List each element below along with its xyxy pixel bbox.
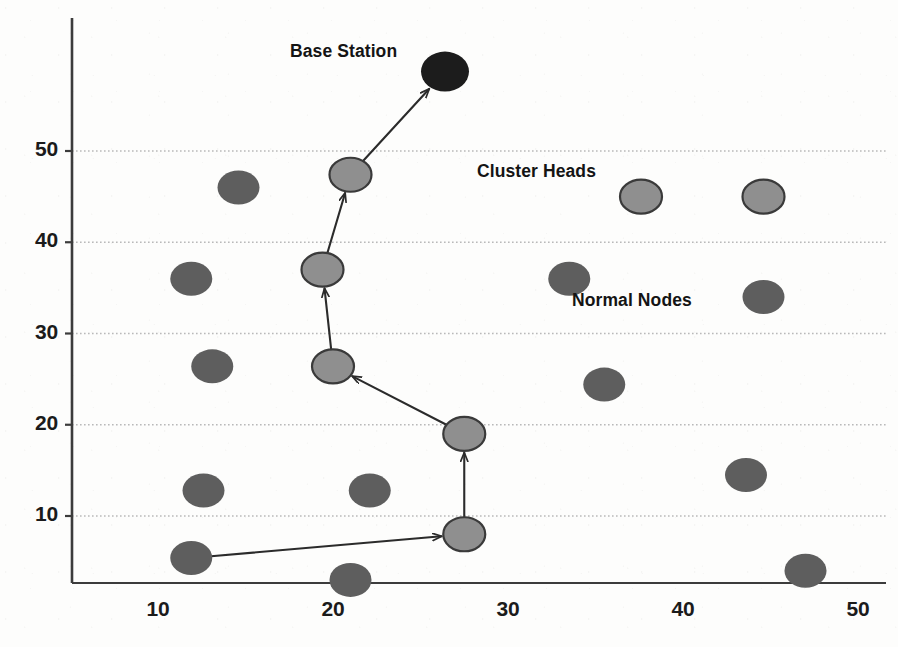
normal-node-10[interactable] [583, 368, 625, 402]
normal-node-9[interactable] [743, 280, 785, 314]
cluster-head-node-1[interactable] [330, 158, 372, 192]
y-tick-label-50: 50 [12, 137, 58, 161]
link-node-to-ch8 [211, 536, 441, 556]
link-ch26-to-ch37 [325, 289, 332, 351]
normal-node-2[interactable] [170, 262, 212, 296]
normal-node-11[interactable] [725, 458, 767, 492]
normal-node-6[interactable] [170, 541, 212, 575]
y-tick-label-20: 20 [12, 411, 58, 435]
cluster-head-node-3[interactable] [312, 349, 354, 383]
cluster-head-node-6[interactable] [620, 180, 662, 214]
x-tick-label-30: 30 [483, 597, 533, 621]
x-tick-label-10: 10 [133, 597, 183, 621]
normal-node-7[interactable] [330, 563, 372, 597]
figure-canvas: 1020304050 1020304050 Base StationCluste… [0, 0, 898, 647]
link-ch37-to-ch47 [327, 193, 345, 254]
link-ch-to-base-station [362, 89, 429, 162]
node-links [211, 89, 464, 556]
scatter-plot [0, 0, 898, 647]
link-ch19-to-ch26 [353, 376, 448, 425]
normal-node-1[interactable] [218, 171, 260, 205]
y-tick-label-40: 40 [12, 228, 58, 252]
base-station-node-1[interactable] [421, 52, 469, 92]
cluster-head-node-4[interactable] [443, 417, 485, 451]
node-markers [170, 52, 826, 597]
cluster-head-node-7[interactable] [743, 180, 785, 214]
normal-node-5[interactable] [349, 473, 391, 507]
normal-node-12[interactable] [785, 554, 827, 588]
x-tick-label-50: 50 [833, 597, 883, 621]
cluster-head-node-5[interactable] [443, 517, 485, 551]
cluster-head-node-2[interactable] [302, 253, 344, 287]
base-station-label: Base Station [290, 41, 397, 62]
y-tick-label-10: 10 [12, 502, 58, 526]
x-tick-label-20: 20 [308, 597, 358, 621]
normal-node-4[interactable] [183, 473, 225, 507]
y-tick-label-30: 30 [12, 320, 58, 344]
cluster-heads-label: Cluster Heads [477, 161, 596, 182]
x-tick-label-40: 40 [658, 597, 708, 621]
normal-node-3[interactable] [191, 349, 233, 383]
normal-nodes-label: Normal Nodes [572, 290, 692, 311]
